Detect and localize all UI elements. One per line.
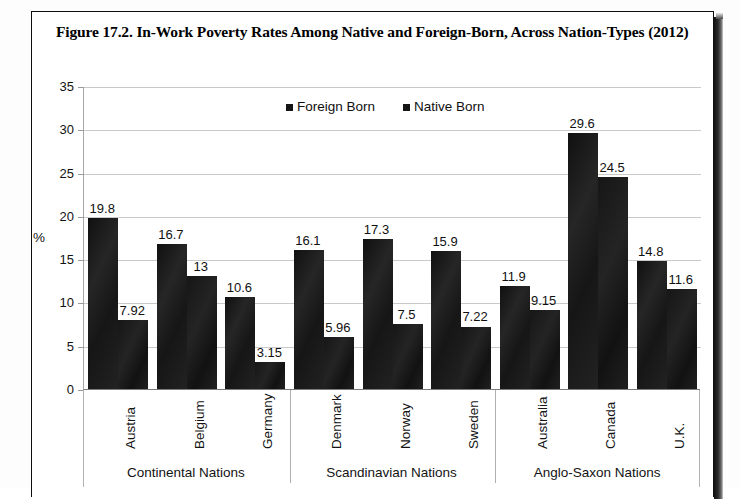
bar-value-label: 14.8 bbox=[628, 245, 674, 258]
group-label: Anglo-Saxon Nations bbox=[494, 466, 700, 480]
x-axis-category-label: Norway bbox=[398, 403, 413, 449]
y-axis-tick bbox=[78, 87, 84, 88]
chart-legend: Foreign Born Native Born bbox=[286, 100, 485, 114]
y-axis-title: % bbox=[33, 230, 45, 245]
bar-native-austria bbox=[118, 320, 148, 389]
bar-native-canada bbox=[598, 177, 628, 389]
bar-value-label: 7.22 bbox=[452, 310, 498, 323]
bar-native-germany bbox=[255, 362, 285, 389]
gridline bbox=[84, 87, 701, 88]
bar-value-label: 11.9 bbox=[491, 270, 537, 283]
bar-value-label: 10.6 bbox=[216, 281, 262, 294]
y-axis-tick bbox=[78, 303, 84, 304]
bar-native-belgium bbox=[187, 276, 217, 389]
group-label: Scandinavian Nations bbox=[289, 466, 495, 480]
x-axis-category-label: Sweden bbox=[466, 400, 481, 449]
bar-value-label: 17.3 bbox=[354, 223, 400, 236]
x-axis-category-label: Australia bbox=[535, 396, 550, 449]
x-axis-category-label: Austria bbox=[123, 407, 138, 449]
x-axis-category-label: Denmark bbox=[329, 394, 344, 449]
legend-item-foreign-born: Foreign Born bbox=[286, 100, 375, 114]
bar-native-denmark bbox=[324, 337, 354, 389]
bar-value-label: 19.8 bbox=[79, 202, 125, 215]
bar-native-australia bbox=[530, 310, 560, 389]
bar-value-label: 16.7 bbox=[148, 228, 194, 241]
bar-value-label: 11.6 bbox=[658, 273, 704, 286]
bar-value-label: 5.96 bbox=[315, 321, 361, 334]
bar-value-label: 29.6 bbox=[559, 117, 605, 130]
group-label: Continental Nations bbox=[83, 466, 289, 480]
bar-value-label: 24.5 bbox=[589, 161, 635, 174]
bar-foreign-austria bbox=[88, 218, 118, 389]
bar-value-label: 7.92 bbox=[109, 304, 155, 317]
legend-swatch-icon bbox=[403, 104, 410, 111]
bar-native-norway bbox=[393, 324, 423, 389]
y-axis-label: 20 bbox=[60, 210, 74, 223]
bar-value-label: 13 bbox=[178, 260, 224, 273]
gridline bbox=[84, 130, 701, 131]
bar-value-label: 7.5 bbox=[384, 308, 430, 321]
x-axis-category-label: Germany bbox=[260, 393, 275, 449]
y-axis-label: 5 bbox=[67, 340, 74, 353]
y-axis-label: 25 bbox=[60, 167, 74, 180]
y-axis-label: 35 bbox=[60, 80, 74, 93]
legend-item-native-born: Native Born bbox=[403, 100, 485, 114]
y-axis-tick bbox=[78, 347, 84, 348]
bar-foreign-denmark bbox=[294, 250, 324, 389]
y-axis-label: 30 bbox=[60, 123, 74, 136]
y-axis-label: 15 bbox=[60, 253, 74, 266]
x-axis-category-label: U.K. bbox=[672, 423, 687, 449]
y-axis-label: 0 bbox=[67, 383, 74, 396]
x-axis-category-label: Belgium bbox=[192, 400, 207, 449]
bar-value-label: 9.15 bbox=[521, 294, 567, 307]
bar-value-label: 3.15 bbox=[246, 346, 292, 359]
y-axis-label: 10 bbox=[60, 296, 74, 309]
y-axis-tick bbox=[78, 260, 84, 261]
bar-native-u-k- bbox=[667, 289, 697, 389]
bar-foreign-germany bbox=[225, 297, 255, 389]
bar-value-label: 16.1 bbox=[285, 234, 331, 247]
x-axis-category-label: Canada bbox=[603, 402, 618, 449]
y-axis-tick bbox=[78, 217, 84, 218]
bar-native-sweden bbox=[461, 327, 491, 390]
legend-label: Foreign Born bbox=[297, 100, 375, 114]
y-axis-tick bbox=[78, 130, 84, 131]
legend-label: Native Born bbox=[414, 100, 485, 114]
y-axis-tick bbox=[78, 174, 84, 175]
bar-value-label: 15.9 bbox=[422, 235, 468, 248]
legend-swatch-icon bbox=[286, 104, 293, 111]
